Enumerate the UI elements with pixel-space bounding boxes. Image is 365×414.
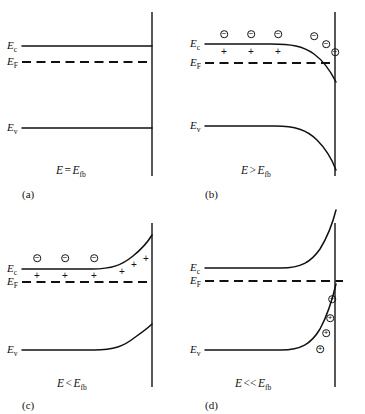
donor-plus-symbol: + bbox=[248, 47, 254, 57]
donor-plus-symbol: + bbox=[34, 271, 40, 281]
hole-symbol: + bbox=[326, 314, 334, 322]
donor-plus-symbol: + bbox=[143, 254, 149, 264]
panel-b-caption: E>Efb bbox=[241, 164, 271, 176]
panel-a-id: (a) bbox=[22, 188, 34, 200]
band-diagram-figure: Ec EF Ev E=Efb (a) Ec EF Ev − − bbox=[0, 0, 365, 414]
panel-c-id: (c) bbox=[22, 399, 34, 411]
ef-label-c: EF bbox=[7, 276, 18, 287]
electron-symbol: − bbox=[33, 254, 41, 262]
ec-label-a: Ec bbox=[7, 40, 17, 51]
electron-symbol: − bbox=[322, 40, 330, 48]
hole-symbol: + bbox=[328, 295, 336, 303]
conduction-band-curve-d bbox=[205, 210, 336, 268]
panel-d-caption: E<<Efb bbox=[235, 377, 271, 389]
panel-a-flat-band: Ec EF Ev E=Efb (a) bbox=[0, 0, 182, 207]
electron-symbol: − bbox=[274, 30, 282, 38]
ev-label-d: Ev bbox=[190, 344, 200, 355]
electron-symbol: − bbox=[331, 48, 339, 56]
hole-symbol: + bbox=[316, 345, 324, 353]
electron-symbol: − bbox=[90, 254, 98, 262]
panel-d-plot bbox=[183, 207, 365, 414]
hole-symbol: + bbox=[322, 329, 330, 337]
donor-plus-symbol: + bbox=[131, 260, 137, 270]
ev-label-b: Ev bbox=[190, 120, 200, 131]
electron-symbol: − bbox=[310, 32, 318, 40]
panel-a-plot bbox=[0, 0, 182, 207]
electron-symbol: − bbox=[61, 254, 69, 262]
electron-symbol: − bbox=[220, 30, 228, 38]
donor-plus-symbol: + bbox=[119, 267, 125, 277]
ef-label-d: EF bbox=[190, 275, 201, 286]
panel-c-caption: E<Efb bbox=[57, 377, 87, 389]
ec-label-b: Ec bbox=[190, 38, 200, 49]
ev-label-a: Ev bbox=[7, 122, 17, 133]
panel-c-depletion: Ec EF Ev − − − + + + + + + E<Efb (c) bbox=[0, 207, 182, 414]
donor-plus-symbol: + bbox=[275, 47, 281, 57]
ec-label-d: Ec bbox=[190, 262, 200, 273]
valence-band-curve-d bbox=[205, 284, 336, 350]
ef-label-b: EF bbox=[190, 57, 201, 68]
ec-label-c: Ec bbox=[7, 263, 17, 274]
donor-plus-symbol: + bbox=[62, 271, 68, 281]
panel-d-id: (d) bbox=[205, 399, 218, 411]
panel-b-accumulation: Ec EF Ev − − − − − − + + + E>Efb (b) bbox=[183, 0, 365, 207]
valence-band-curve-c bbox=[22, 324, 152, 350]
panel-b-id: (b) bbox=[205, 188, 218, 200]
panel-a-caption: E=Efb bbox=[56, 164, 86, 176]
donor-plus-symbol: + bbox=[221, 47, 227, 57]
ev-label-c: Ev bbox=[7, 344, 17, 355]
ef-label-a: EF bbox=[7, 56, 18, 67]
electron-symbol: − bbox=[247, 30, 255, 38]
donor-plus-symbol: + bbox=[91, 271, 97, 281]
panel-d-inversion: Ec EF Ev + + + + E<<Efb (d) bbox=[183, 207, 365, 414]
panel-c-plot bbox=[0, 207, 182, 414]
